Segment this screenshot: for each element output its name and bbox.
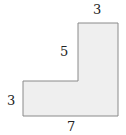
label-bottom-width: 7 (67, 120, 75, 133)
label-left-height: 3 (7, 94, 15, 107)
l-shape (23, 23, 118, 116)
l-shape-figure (0, 0, 126, 135)
label-inner-height: 5 (60, 45, 68, 58)
label-top-width: 3 (93, 3, 101, 16)
